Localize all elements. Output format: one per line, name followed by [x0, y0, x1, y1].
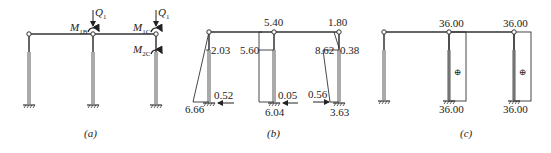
- panel-b: 5.40 1.80 2.03 5.60 8.62 0.38 6.66 0.52 …: [185, 16, 360, 140]
- value-top-right: 36.00: [503, 17, 528, 29]
- value-mid-base: 6.04: [265, 106, 285, 118]
- frame-diagrams: Q1 M1B Q1 M1C M2C (a): [0, 0, 551, 153]
- value-left-base: 6.66: [185, 103, 205, 115]
- value-right-shear: 0.56: [308, 88, 328, 100]
- moment-diagram-col2: [259, 32, 274, 102]
- value-right-upper-right: 0.38: [340, 44, 360, 56]
- value-top-mid: 36.00: [439, 17, 464, 29]
- column-1: [378, 32, 390, 104]
- column-3: [150, 32, 162, 108]
- moment-diagram-col1: [193, 32, 209, 102]
- column-1: [23, 32, 35, 108]
- value-top-right: 1.80: [328, 16, 348, 28]
- value-left-shear: 0.52: [214, 89, 233, 101]
- value-mid-upper: 5.60: [240, 44, 260, 56]
- panel-a: Q1 M1B Q1 M1C M2C (a): [23, 6, 170, 140]
- panel-c: ⊕ ⊕ 36.00 36.00 36.00 36.00 (c): [378, 17, 531, 140]
- sign-mid: ⊕: [454, 67, 462, 77]
- value-base-right: 36.00: [503, 103, 528, 115]
- q1-right-label: Q1: [158, 6, 170, 21]
- caption-c: (c): [460, 127, 473, 140]
- sign-right: ⊕: [519, 67, 527, 77]
- caption-a: (a): [84, 127, 97, 140]
- q1-left-label: Q1: [95, 6, 107, 21]
- value-base-mid: 36.00: [439, 103, 464, 115]
- value-left-upper: 2.03: [211, 44, 231, 56]
- value-mid-shear: 0.05: [278, 89, 298, 101]
- m2c-label: M2C: [132, 43, 151, 58]
- value-right-base: 3.63: [330, 106, 350, 118]
- column-2: [87, 32, 99, 108]
- value-top-mid: 5.40: [264, 16, 284, 28]
- caption-b: (b): [267, 127, 280, 140]
- value-right-upper-left: 8.62: [315, 44, 334, 56]
